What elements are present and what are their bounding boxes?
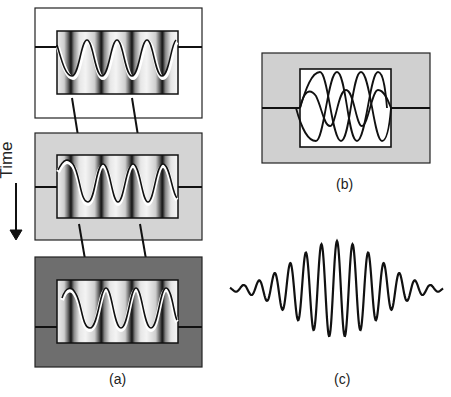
panel-a-label: (a) — [109, 371, 126, 387]
figure-canvas — [0, 0, 451, 397]
time-label: Time — [0, 141, 17, 178]
panel-b-label: (b) — [336, 176, 353, 192]
panel-a-frame-2 — [35, 133, 202, 240]
panel-a-frame-1 — [35, 8, 202, 118]
panel-b-cavity — [262, 53, 430, 163]
panel-c-wave-packet — [230, 241, 443, 336]
panel-a-frame-3 — [35, 257, 202, 367]
time-axis: Time — [2, 120, 32, 250]
panel-c-label: (c) — [334, 371, 350, 387]
